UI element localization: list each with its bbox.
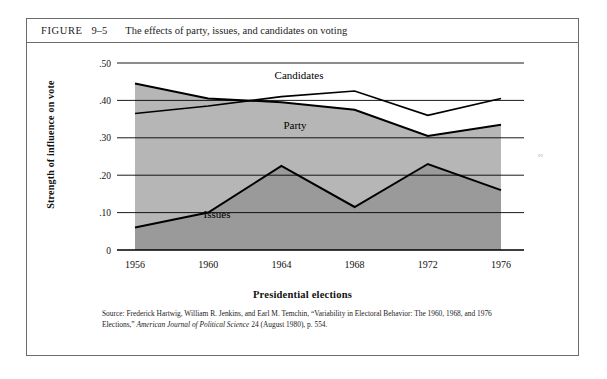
y-tick-label: .40 — [99, 96, 111, 106]
x-tick-label: 1976 — [491, 259, 511, 270]
y-tick-label: 0 — [106, 246, 111, 256]
source-suffix: 24 (August 1980), p. 554. — [249, 320, 327, 329]
x-tick-label: 1960 — [198, 259, 218, 270]
figure-label: FIGURE — [41, 25, 83, 36]
party-series-label: Party — [283, 119, 307, 131]
x-tick-label: 1972 — [418, 259, 438, 270]
x-tick-label: 1968 — [345, 259, 365, 270]
chart-svg: 0.10.20.30.40.50 19561960196419681972197… — [27, 43, 580, 303]
scan-artifact-mark: °° — [538, 155, 543, 160]
y-tick-labels: 0.10.20.30.40.50 — [99, 59, 111, 256]
source-journal: American Journal of Political Science — [136, 320, 249, 329]
figure-header: FIGURE 9–5 The effects of party, issues,… — [27, 19, 578, 43]
y-tick-label: .50 — [99, 59, 111, 69]
source-note: Source: Frederick Hartwig, William R. Je… — [102, 309, 522, 330]
x-tick-label: 1956 — [125, 259, 145, 270]
x-tick-label: 1964 — [271, 259, 291, 270]
figure-frame: FIGURE 9–5 The effects of party, issues,… — [26, 18, 579, 356]
candidates-series-label: Candidates — [275, 69, 324, 81]
y-tick-label: .20 — [99, 171, 111, 181]
figure-number: 9–5 — [92, 25, 108, 36]
chart-plot-area: Strength of influence on vote 0.10.20.30… — [27, 43, 578, 357]
y-tick-label: .30 — [99, 133, 111, 143]
x-axis-title: Presidential elections — [27, 289, 578, 300]
issues-series-label: Issues — [204, 208, 231, 220]
x-tick-labels: 195619601964196819721976 — [125, 259, 511, 270]
y-tick-label: .10 — [99, 208, 111, 218]
figure-title: The effects of party, issues, and candid… — [125, 25, 347, 36]
